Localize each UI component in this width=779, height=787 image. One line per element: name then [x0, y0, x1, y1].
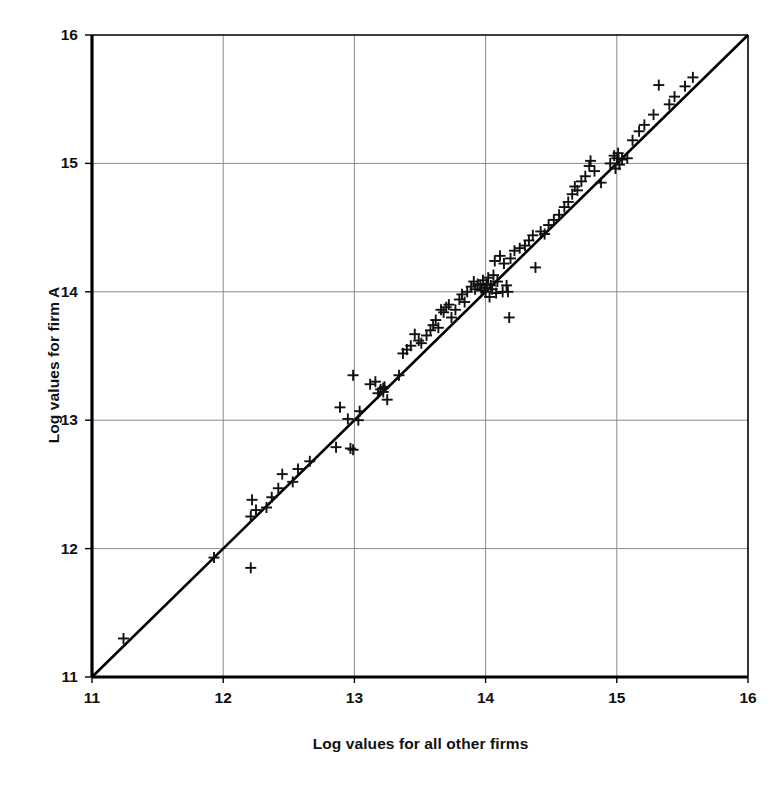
- y-tick-label: 12: [46, 540, 78, 558]
- x-tick-label: 16: [739, 689, 756, 707]
- plot-canvas: [0, 0, 779, 787]
- x-axis-title: Log values for all other firms: [92, 735, 749, 753]
- x-tick-label: 15: [608, 689, 625, 707]
- x-tick-label: 12: [215, 689, 232, 707]
- data-point-markers: [118, 72, 698, 644]
- x-tick-label: 13: [346, 689, 363, 707]
- y-tick-label: 11: [46, 668, 78, 686]
- y-axis-title: Log values for firm A: [45, 215, 63, 515]
- y-tick-label: 15: [46, 154, 78, 172]
- x-tick-label: 11: [84, 689, 100, 707]
- y-tick-label: 16: [46, 26, 78, 44]
- x-tick-label: 14: [477, 689, 494, 707]
- scatter-plot-figure: 111213141516 111213141516 Log values for…: [0, 0, 779, 787]
- identity-reference-line: [92, 35, 748, 677]
